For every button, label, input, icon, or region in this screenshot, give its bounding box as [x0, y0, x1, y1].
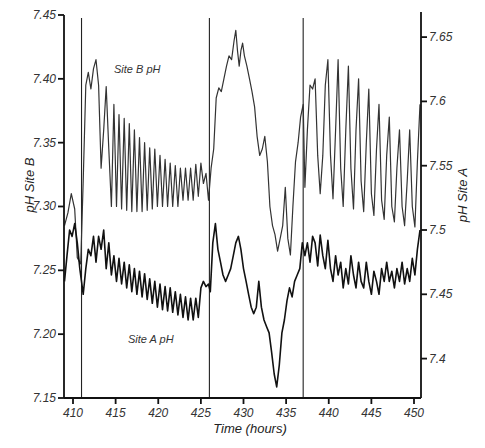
right-y-axis-ticks: 7.47.457.57.557.67.65 — [421, 30, 453, 366]
x-tick-label: 430 — [233, 406, 253, 420]
x-tick-label: 445 — [361, 406, 381, 420]
left-y-axis-ticks: 7.157.207.257.307.357.407.45 — [33, 8, 64, 405]
x-tick-label: 435 — [276, 406, 296, 420]
left-y-tick-label: 7.25 — [33, 263, 57, 277]
left-y-axis-title: pH Site B — [22, 157, 37, 213]
site-b-label: Site B pH — [114, 63, 161, 75]
dual-axis-ph-chart: 410415420425430435440445450 7.157.207.25… — [0, 0, 485, 448]
x-tick-label: 420 — [148, 406, 168, 420]
series-layer — [65, 30, 421, 387]
right-y-tick-label: 7.65 — [429, 30, 453, 44]
right-y-tick-label: 7.4 — [429, 352, 446, 366]
x-tick-label: 415 — [106, 406, 126, 420]
site-a-ph-line — [65, 224, 421, 387]
left-y-tick-label: 7.45 — [33, 8, 57, 22]
right-y-tick-label: 7.45 — [429, 287, 453, 301]
x-axis-title: Time (hours) — [213, 421, 287, 436]
left-y-tick-label: 7.15 — [33, 391, 57, 405]
x-tick-label: 410 — [63, 406, 83, 420]
right-y-tick-label: 7.6 — [429, 94, 446, 108]
left-y-tick-label: 7.40 — [33, 72, 57, 86]
left-y-tick-label: 7.20 — [33, 327, 57, 341]
site-a-label: Site A pH — [128, 333, 174, 345]
x-tick-label: 450 — [404, 406, 424, 420]
x-tick-label: 440 — [319, 406, 339, 420]
right-y-tick-label: 7.55 — [429, 159, 453, 173]
right-y-axis-title: pH Site A — [455, 168, 470, 223]
x-tick-label: 425 — [191, 406, 211, 420]
right-y-tick-label: 7.5 — [429, 223, 446, 237]
left-y-tick-label: 7.35 — [33, 136, 57, 150]
x-axis-ticks: 410415420425430435440445450 — [63, 398, 424, 420]
